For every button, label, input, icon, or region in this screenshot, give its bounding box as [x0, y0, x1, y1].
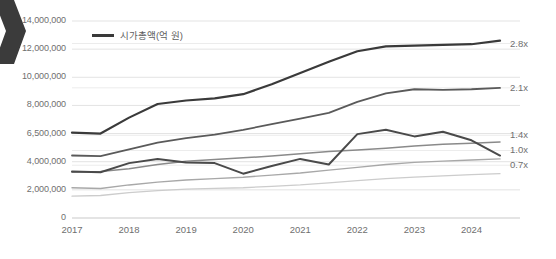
- x-axis-tick-label: 2022: [337, 224, 377, 235]
- multiplier-label: 2.8x: [510, 38, 528, 49]
- x-axis-tick-label: 2024: [451, 224, 491, 235]
- x-axis-tick-label: 2018: [109, 224, 149, 235]
- y-axis-tick-label: 14,000,000: [22, 15, 66, 25]
- legend-label: 시가총액(억 원): [120, 28, 183, 42]
- x-axis-tick-label: 2021: [280, 224, 320, 235]
- multiplier-label: 0.7x: [510, 159, 528, 170]
- y-axis-tick-label: 0: [61, 212, 66, 222]
- legend: 시가총액(억 원): [92, 28, 183, 42]
- multiplier-label: 2.1x: [510, 82, 528, 93]
- multiplier-label: 1.4x: [510, 129, 528, 140]
- x-axis-tick-label: 2023: [394, 224, 434, 235]
- series-line: [72, 41, 500, 134]
- y-axis-tick-label: 4,000,000: [27, 156, 66, 166]
- x-axis-tick-label: 2020: [223, 224, 263, 235]
- series-lines: [72, 41, 500, 196]
- legend-swatch-icon: [92, 34, 114, 37]
- x-axis-tick-label: 2019: [166, 224, 206, 235]
- y-axis-tick-label: 2,000,000: [27, 184, 66, 194]
- multiplier-label: 1.0x: [510, 144, 528, 155]
- y-axis-tick-label: 10,000,000: [22, 71, 66, 81]
- plot-canvas: [0, 0, 556, 259]
- x-axis-tick-label: 2017: [52, 224, 92, 235]
- y-axis-tick-label: 12,000,000: [22, 43, 66, 53]
- series-line: [72, 142, 500, 172]
- series-line: [72, 88, 500, 156]
- y-axis-tick-label: 6,500,000: [27, 128, 66, 138]
- market-cap-line-chart: 02,000,0004,000,0006,500,0008,000,00010,…: [0, 0, 556, 259]
- series-line: [72, 174, 500, 197]
- y-axis-tick-label: 8,000,000: [27, 99, 66, 109]
